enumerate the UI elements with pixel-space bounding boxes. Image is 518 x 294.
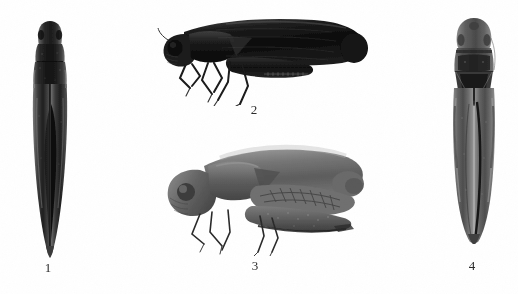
specimen-3-lateral-image [160, 140, 372, 256]
figure-4 [448, 14, 500, 244]
specimen-plate: 1 [0, 0, 518, 294]
figure-3-label: 3 [245, 259, 265, 273]
figure-1-label: 1 [38, 261, 58, 275]
figure-4-label: 4 [462, 259, 482, 273]
specimen-1-dorsal-image [28, 18, 72, 258]
specimen-2-lateral-image [156, 8, 372, 106]
figure-3 [160, 140, 372, 256]
figure-2 [156, 8, 372, 106]
specimen-4-dorsal-image [448, 14, 500, 244]
figure-1 [28, 18, 72, 258]
figure-2-label: 2 [244, 103, 264, 117]
